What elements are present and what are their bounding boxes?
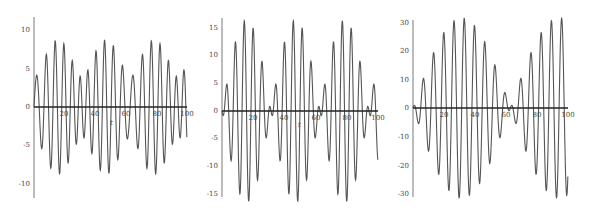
svg-text:30: 30 bbox=[400, 19, 409, 27]
svg-text:-20: -20 bbox=[398, 162, 409, 170]
svg-text:60: 60 bbox=[502, 111, 511, 119]
svg-text:100: 100 bbox=[561, 111, 574, 119]
svg-text:-30: -30 bbox=[398, 190, 409, 198]
svg-text:10: 10 bbox=[400, 76, 409, 84]
svg-text:40: 40 bbox=[471, 111, 480, 119]
svg-text:80: 80 bbox=[533, 111, 542, 119]
y-tick-labels: 30 20 10 0 -10 -20 -30 bbox=[398, 19, 409, 198]
svg-text:20: 20 bbox=[400, 47, 409, 55]
chart-panel-3: 30 20 10 0 -10 -20 -30 20 40 60 80 100 bbox=[0, 0, 595, 211]
svg-text:0: 0 bbox=[405, 104, 409, 112]
svg-text:-10: -10 bbox=[398, 133, 409, 141]
svg-text:20: 20 bbox=[440, 111, 449, 119]
plot-3: 30 20 10 0 -10 -20 -30 20 40 60 80 100 bbox=[0, 0, 595, 211]
